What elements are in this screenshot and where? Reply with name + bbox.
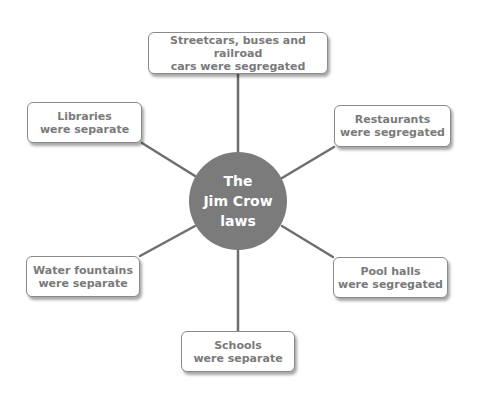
hub-text-line3: laws	[220, 211, 256, 231]
node-libraries: Libraries were separate	[27, 102, 142, 143]
node-restaurants: Restaurants were segregated	[334, 105, 451, 147]
node-text-line1: Libraries	[57, 110, 112, 123]
node-text-line2: were segregated	[338, 278, 443, 291]
node-text-line2: were separate	[40, 123, 129, 136]
node-text-line2: were segregated	[340, 126, 445, 139]
node-water-fountains: Water fountains were separate	[26, 256, 140, 297]
connector-restaurants	[282, 147, 334, 178]
node-pool-halls: Pool halls were segregated	[333, 257, 448, 298]
node-schools: Schools were separate	[181, 331, 295, 372]
hub-text-line2: Jim Crow	[203, 191, 272, 211]
connector-pool-halls	[282, 226, 333, 257]
node-text-line2: were separate	[193, 352, 282, 365]
jim-crow-spider-diagram: The Jim Crow laws Streetcars, buses and …	[0, 0, 478, 398]
node-text-line1: Water fountains	[33, 264, 133, 277]
hub-text-line1: The	[223, 171, 252, 191]
node-text-line2: were separate	[38, 277, 127, 290]
node-text-line1: Streetcars, buses and railroad	[149, 34, 327, 60]
node-streetcars: Streetcars, buses and railroad cars were…	[148, 32, 328, 74]
connector-water-fountains	[140, 226, 195, 256]
node-text-line1: Pool halls	[360, 265, 420, 278]
hub-jim-crow-laws: The Jim Crow laws	[189, 152, 287, 250]
node-text-line2: cars were segregated	[171, 60, 306, 73]
node-text-line1: Restaurants	[355, 113, 430, 126]
node-text-line1: Schools	[214, 339, 262, 352]
connector-libraries	[142, 143, 195, 176]
